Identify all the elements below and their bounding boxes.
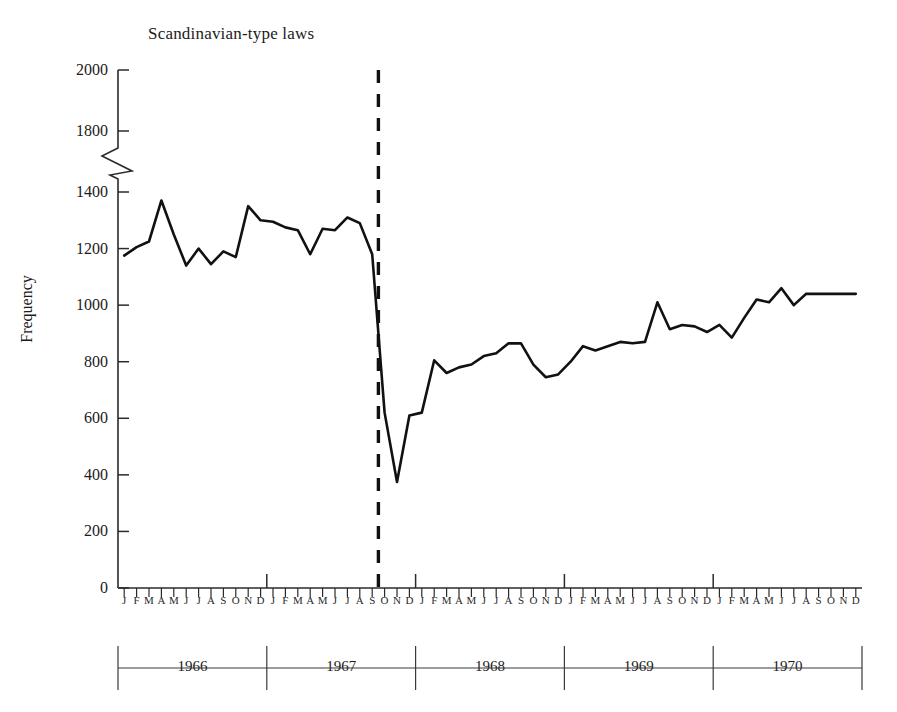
chart-canvas <box>0 0 897 712</box>
chart-figure: Scandinavian-type laws Frequency 0200400… <box>0 0 897 712</box>
year-axis-group <box>118 646 862 690</box>
chart-axes <box>102 70 862 588</box>
axis-ticks <box>118 70 856 597</box>
y-axis <box>102 70 132 588</box>
data-series-line <box>124 200 856 481</box>
